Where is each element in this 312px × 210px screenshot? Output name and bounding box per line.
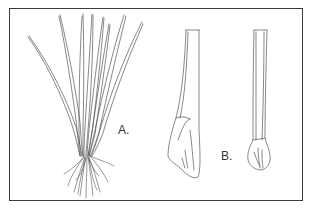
panel-label-b: B.	[221, 149, 232, 163]
leaf-base-right	[248, 30, 270, 170]
leaf-base-left	[168, 30, 200, 178]
plant-roots	[64, 156, 114, 198]
panel-label-a: A.	[118, 123, 129, 137]
botanical-illustration	[0, 0, 312, 210]
